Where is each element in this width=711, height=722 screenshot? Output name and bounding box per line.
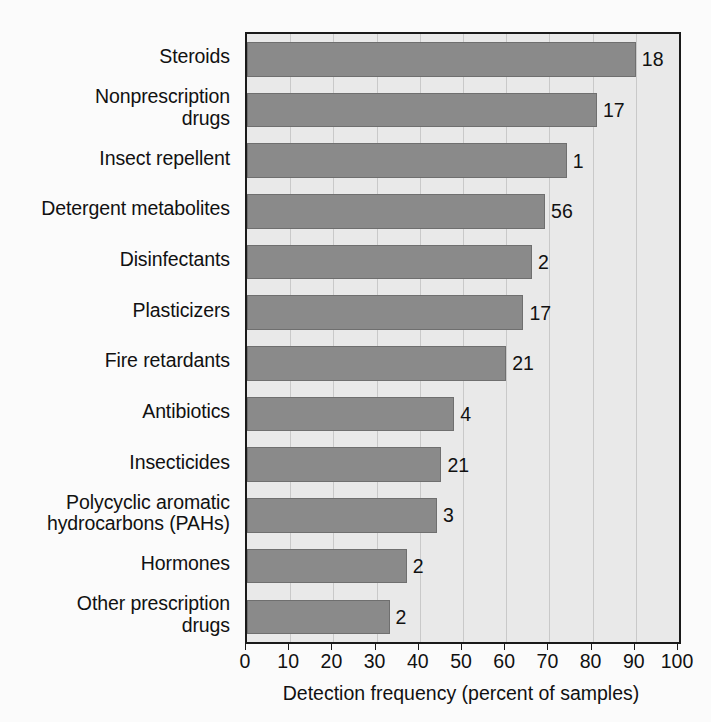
bar-slot: 21 xyxy=(247,439,679,490)
bar[interactable]: 1 xyxy=(247,143,567,177)
category-label: Polycyclic aromatic hydrocarbons (PAHs) xyxy=(0,488,238,539)
bar-value-label: 2 xyxy=(538,251,549,274)
x-axis-tick-label: 30 xyxy=(364,650,386,673)
bar-slot: 2 xyxy=(247,237,679,288)
bar-value-label: 21 xyxy=(512,352,534,375)
bar-value-label: 4 xyxy=(460,403,471,426)
bar-value-label: 56 xyxy=(551,200,573,223)
x-axis-tick xyxy=(245,642,246,650)
bar[interactable]: 56 xyxy=(247,194,545,228)
bar-value-label: 17 xyxy=(603,99,625,122)
category-label: Insecticides xyxy=(0,437,238,488)
category-label: Fire retardants xyxy=(0,336,238,387)
x-axis-tick-label: 0 xyxy=(240,650,251,673)
bar-value-label: 1 xyxy=(573,149,584,172)
bar-slot: 2 xyxy=(247,541,679,592)
x-axis-tick xyxy=(591,642,592,650)
bar-slot: 3 xyxy=(247,490,679,541)
bar-slot: 4 xyxy=(247,389,679,440)
bar[interactable]: 2 xyxy=(247,549,407,583)
x-axis-title: Detection frequency (percent of samples) xyxy=(245,682,677,705)
x-axis-tick xyxy=(461,642,462,650)
category-label: Steroids xyxy=(0,32,238,83)
plot-area: 181715621721421322 xyxy=(245,32,681,644)
bar-value-label: 21 xyxy=(447,453,469,476)
bar-value-label: 2 xyxy=(413,555,424,578)
x-axis-tick xyxy=(634,642,635,650)
x-axis-tick-label: 90 xyxy=(623,650,645,673)
bar-slot: 18 xyxy=(247,34,679,85)
x-axis-tick-label: 60 xyxy=(493,650,515,673)
bar-value-label: 18 xyxy=(642,48,664,71)
bar-slot: 1 xyxy=(247,135,679,186)
category-label: Detergent metabolites xyxy=(0,184,238,235)
bar-slot: 2 xyxy=(247,591,679,642)
x-axis-tick-label: 40 xyxy=(407,650,429,673)
bar[interactable]: 18 xyxy=(247,42,636,76)
x-axis-tick xyxy=(331,642,332,650)
category-label: Insect repellent xyxy=(0,133,238,184)
x-axis-tick xyxy=(418,642,419,650)
x-axis-tick-label: 20 xyxy=(321,650,343,673)
x-axis-tick-label: 10 xyxy=(277,650,299,673)
bar[interactable]: 17 xyxy=(247,93,597,127)
category-label: Other prescription drugs xyxy=(0,589,238,640)
bar[interactable]: 21 xyxy=(247,447,441,481)
x-axis-tick xyxy=(375,642,376,650)
x-axis-tick xyxy=(547,642,548,650)
category-label: Nonprescription drugs xyxy=(0,83,238,134)
bar-slot: 56 xyxy=(247,186,679,237)
x-axis-tick-label: 70 xyxy=(537,650,559,673)
x-axis-tick-label: 80 xyxy=(580,650,602,673)
bar[interactable]: 21 xyxy=(247,346,506,380)
bar-value-label: 17 xyxy=(529,301,551,324)
x-axis-tick xyxy=(677,642,678,650)
category-label: Antibiotics xyxy=(0,387,238,438)
category-label: Hormones xyxy=(0,539,238,590)
bar-slot: 17 xyxy=(247,85,679,136)
bar-chart: SteroidsNonprescription drugsInsect repe… xyxy=(0,0,711,722)
bar-slot: 17 xyxy=(247,287,679,338)
x-axis-tick-label: 50 xyxy=(450,650,472,673)
x-axis-tick xyxy=(288,642,289,650)
x-axis-tick-labels: 0102030405060708090100 xyxy=(245,650,677,676)
bar-value-label: 2 xyxy=(396,605,407,628)
bar[interactable]: 3 xyxy=(247,498,437,532)
bar-slot: 21 xyxy=(247,338,679,389)
x-axis-tick-label: 100 xyxy=(661,650,694,673)
x-axis-tick xyxy=(504,642,505,650)
bar-value-label: 3 xyxy=(443,504,454,527)
category-label: Plasticizers xyxy=(0,285,238,336)
category-label: Disinfectants xyxy=(0,235,238,286)
bar[interactable]: 17 xyxy=(247,295,523,329)
bar[interactable]: 2 xyxy=(247,245,532,279)
bars-layer: 181715621721421322 xyxy=(247,34,679,642)
bar[interactable]: 2 xyxy=(247,600,390,634)
category-axis: SteroidsNonprescription drugsInsect repe… xyxy=(0,32,238,640)
bar[interactable]: 4 xyxy=(247,397,454,431)
